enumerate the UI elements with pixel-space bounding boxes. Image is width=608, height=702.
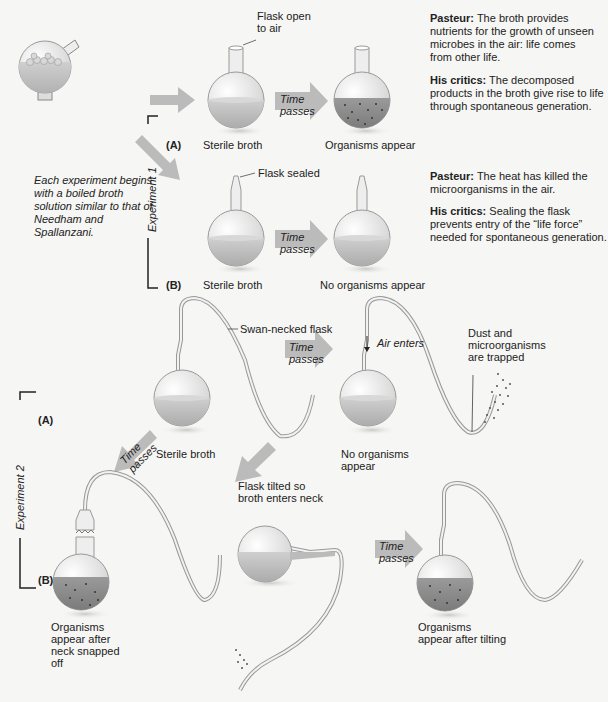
exp1b-critics: His critics: Sealing the flask prevents … — [430, 205, 608, 244]
exp1a-critics: His critics: The decomposed products in … — [430, 74, 605, 113]
exp2-tag-a: (A) — [38, 414, 53, 426]
sterile-broth-label: Sterile broth — [203, 279, 262, 291]
exp1-tag-b: (B) — [166, 279, 181, 291]
no-organisms-label: No organisms appear — [341, 448, 411, 472]
tilted-flask-icon — [238, 526, 342, 690]
organisms-in-neck-icon — [235, 649, 248, 669]
experiment1-label: Experiment 1 — [146, 167, 158, 232]
intro-caption: Each experiment begins with a boiled bro… — [34, 174, 162, 239]
air-enters-label: Air enters — [377, 337, 424, 349]
after-tilting-label: Organisms appear after tilting — [418, 621, 508, 645]
swan-neck-flask-icon — [152, 298, 313, 436]
snapped-neck-label: Organisms appear after neck snapped off — [51, 621, 131, 669]
critics-heading: His critics: — [430, 74, 486, 86]
swan-neck-flask-air-icon — [338, 298, 495, 435]
flask-after-tilting-icon — [415, 483, 582, 620]
flask-open-icon — [206, 46, 266, 136]
bracket-bottom — [148, 238, 158, 288]
pasteur-heading: Pasteur: — [430, 12, 474, 24]
time-passes-label: Time passes — [280, 93, 310, 117]
pasteur-heading: Pasteur: — [430, 170, 474, 182]
time-passes-label: Time passes — [379, 540, 409, 564]
exp1b-pasteur: Pasteur: The heat has killed the microor… — [430, 170, 595, 196]
arrow-down-left-icon — [235, 442, 276, 482]
no-organisms-label: No organisms appear — [320, 279, 425, 291]
snapped-neck-flask-icon — [51, 472, 220, 619]
exp2-tag-b: (B) — [38, 574, 53, 586]
exp1-tag-a: (A) — [166, 139, 181, 151]
dust-note: Dust and microorganisms are trapped — [468, 327, 558, 363]
critics-heading: His critics: — [430, 205, 486, 217]
swan-neck-note: Swan-necked flask — [240, 323, 332, 335]
tilted-note: Flask tilted so broth enters neck — [238, 480, 328, 504]
time-passes-label: Time passes — [280, 231, 310, 255]
arrow-right-icon — [150, 87, 195, 113]
organisms-appear-label: Organisms appear — [325, 139, 416, 151]
flask-sealed-note: Flask sealed — [258, 167, 320, 179]
boiling-flask-icon — [15, 40, 79, 102]
flask-sealed-icon — [206, 176, 266, 274]
time-passes-label: Time passes — [289, 341, 319, 365]
exp1a-pasteur: Pasteur: The broth provides nutrients fo… — [430, 12, 600, 64]
sterile-broth-label: Sterile broth — [156, 448, 215, 460]
bracket-top — [148, 116, 158, 124]
flask-sealed-clear-icon — [332, 176, 392, 274]
flask-open-note: Flask open to air — [257, 10, 317, 34]
experiment2-label: Experiment 2 — [14, 465, 26, 530]
flask-organisms-icon — [332, 46, 392, 136]
sterile-broth-label: Sterile broth — [203, 139, 262, 151]
